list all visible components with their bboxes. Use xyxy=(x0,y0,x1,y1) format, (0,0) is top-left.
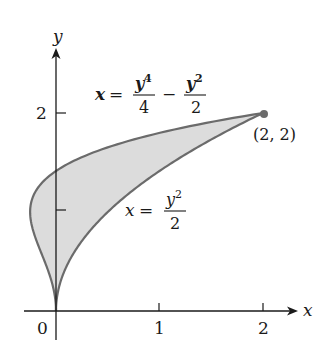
eq1-equals: = xyxy=(109,84,123,104)
eq1-lhs: x xyxy=(94,84,106,104)
region-diagram: x y 0 1 2 2 (2, 2) x = y 4 4 − y 2 2 x =… xyxy=(0,0,324,351)
y-axis-label: y xyxy=(52,26,63,46)
intersection-point-label: (2, 2) xyxy=(253,125,296,144)
x-tick-label-1: 1 xyxy=(154,318,165,338)
eq1-frac2-den: 2 xyxy=(191,98,201,117)
equation-label-quartic: x = y 4 4 − y 2 2 xyxy=(94,72,206,117)
equation-label-parabola: x = y 2 2 xyxy=(125,188,186,233)
eq2-exp: 2 xyxy=(175,188,182,201)
eq2-den: 2 xyxy=(170,214,180,233)
x-tick-label-2: 2 xyxy=(258,318,269,338)
eq1-frac1-den: 4 xyxy=(139,98,149,117)
y-tick-label-2: 2 xyxy=(36,103,47,123)
eq1-frac1-exp: 4 xyxy=(144,72,152,85)
x-axis-label: x xyxy=(303,300,313,320)
intersection-point xyxy=(260,110,268,118)
origin-label: 0 xyxy=(37,318,48,338)
eq2-equals: = xyxy=(139,200,153,220)
eq1-frac2-exp: 2 xyxy=(195,72,203,85)
eq1-minus: − xyxy=(162,84,176,104)
eq2-lhs: x xyxy=(125,200,135,220)
